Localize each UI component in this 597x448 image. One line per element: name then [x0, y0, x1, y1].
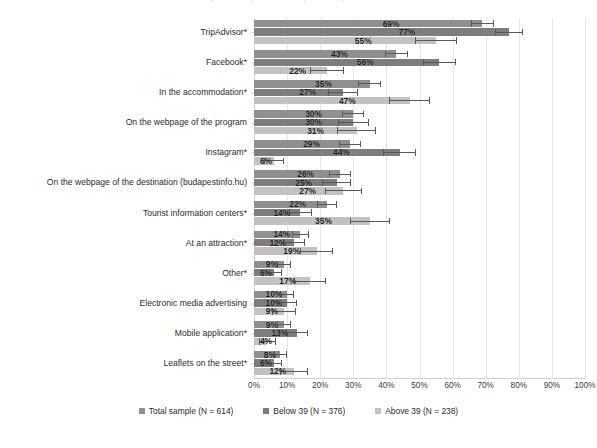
x-axis-tick-label: 0% — [248, 381, 260, 390]
error-bar — [471, 20, 494, 27]
legend-label: Above 39 (N = 238) — [385, 406, 458, 416]
category-label: TripAdvisor* — [201, 28, 247, 37]
bar-2 — [254, 37, 436, 44]
error-bar — [389, 97, 431, 104]
category-label: Leaflets on the street* — [163, 359, 247, 368]
data-label: 14% — [273, 208, 290, 218]
category-label: Instagram* — [205, 149, 247, 158]
bar-group: 9%13%4% — [254, 321, 585, 347]
bar-1 — [254, 28, 509, 35]
data-label: 17% — [279, 276, 296, 286]
error-bar — [310, 67, 344, 74]
chart-row: Leaflets on the street*8%6%12% — [254, 349, 585, 379]
error-bar — [317, 201, 337, 208]
chart-row: Mobile application*9%13%4% — [254, 319, 585, 349]
chart-row: At an attraction*14%12%19% — [254, 229, 585, 259]
category-label: Mobile application* — [175, 329, 247, 338]
chart-row: Facebook*43%56%22% — [254, 48, 585, 78]
error-bar — [329, 170, 350, 177]
category-label: Facebook* — [206, 58, 247, 67]
data-label: 9% — [266, 306, 278, 316]
legend-item[interactable]: Total sample (N = 614) — [139, 406, 234, 416]
data-label: 77% — [399, 27, 416, 37]
data-label: 12% — [269, 366, 286, 376]
error-bar — [385, 50, 408, 57]
bar-group: 26%25%27% — [254, 170, 585, 196]
bar-group: 14%12%19% — [254, 231, 585, 257]
error-bar — [415, 37, 457, 44]
bar-chart: Information sources used by tourists (sh… — [0, 0, 597, 448]
category-label: Tourist information centers* — [143, 209, 247, 218]
category-label: On the webpage of the program — [126, 119, 247, 128]
bar-1 — [254, 149, 400, 156]
x-axis-tick-label: 50% — [411, 381, 427, 390]
chart-row: Instagram*29%44%6% — [254, 138, 585, 168]
bar-group: 69%77%55% — [254, 20, 585, 46]
data-label: 6% — [260, 268, 272, 278]
legend-item[interactable]: Below 39 (N = 376) — [263, 406, 345, 416]
chart-title: Information sources used by tourists (sh… — [96, 0, 345, 2]
legend-swatch-below39 — [263, 408, 269, 414]
data-label: 19% — [283, 246, 300, 256]
bar-0 — [254, 110, 353, 117]
x-axis-tick-label: 20% — [312, 381, 328, 390]
error-bar — [337, 127, 375, 134]
data-label: 13% — [271, 328, 288, 338]
data-label: 27% — [299, 87, 316, 97]
legend-swatch-total — [139, 408, 145, 414]
error-bar — [338, 119, 368, 126]
bar-group: 22%14%35% — [254, 201, 585, 227]
error-bar — [383, 149, 416, 156]
category-label: In the accommodation* — [159, 88, 247, 97]
data-label: 31% — [307, 126, 324, 136]
data-label: 22% — [289, 199, 306, 209]
bar-1 — [254, 59, 439, 66]
x-axis-tick-label: 40% — [378, 381, 394, 390]
data-label: 69% — [383, 19, 400, 29]
bar-group: 35%27%47% — [254, 80, 585, 106]
x-axis-tick-label: 100% — [575, 381, 596, 390]
legend-item[interactable]: Above 39 (N = 238) — [375, 406, 458, 416]
error-bar — [322, 179, 351, 186]
data-label: 27% — [299, 186, 316, 196]
error-bar — [286, 329, 309, 336]
gridline — [585, 18, 586, 379]
chart-row: On the webpage of the program30%30%31% — [254, 108, 585, 138]
error-bar — [289, 209, 312, 216]
chart-row: In the accommodation*35%27%47% — [254, 78, 585, 108]
bar-group: 30%30%31% — [254, 110, 585, 136]
x-axis-tick-label: 10% — [279, 381, 295, 390]
chart-row: On the webpage of the destination (budap… — [254, 168, 585, 198]
data-label: 47% — [339, 96, 356, 106]
chart-row: Other*9%6%17% — [254, 259, 585, 289]
category-label: At an attraction* — [186, 239, 247, 248]
category-label: Other* — [222, 269, 247, 278]
plot-area: TripAdvisor*69%77%55%Facebook*43%56%22%I… — [254, 18, 585, 379]
bar-group: 29%44%6% — [254, 140, 585, 166]
bar-0 — [254, 50, 396, 57]
data-label: 29% — [303, 139, 320, 149]
error-bar — [495, 28, 523, 35]
x-axis-tick-label: 70% — [477, 381, 493, 390]
error-bar — [358, 80, 381, 87]
data-label: 43% — [331, 49, 348, 59]
error-bar — [294, 277, 326, 284]
data-label: 4% — [260, 336, 272, 346]
error-bar — [292, 231, 309, 238]
chart-title-strip: Information sources used by tourists (sh… — [0, 0, 597, 13]
category-label: On the webpage of the destination (budap… — [47, 179, 247, 188]
legend-label: Total sample (N = 614) — [149, 406, 234, 416]
data-label: 35% — [315, 79, 332, 89]
data-label: 44% — [333, 147, 350, 157]
chart-row: Electronic media advertising10%10%9% — [254, 289, 585, 319]
legend-swatch-above39 — [375, 408, 381, 414]
chart-legend: Total sample (N = 614)Below 39 (N = 376)… — [0, 406, 597, 416]
bar-0 — [254, 20, 482, 27]
x-axis-tick-label: 30% — [345, 381, 361, 390]
bar-group: 43%56%22% — [254, 50, 585, 76]
data-label: 56% — [357, 57, 374, 67]
bar-group: 9%6%17% — [254, 261, 585, 287]
error-bar — [325, 187, 362, 194]
data-label: 35% — [315, 216, 332, 226]
x-axis-tick-label: 90% — [544, 381, 560, 390]
